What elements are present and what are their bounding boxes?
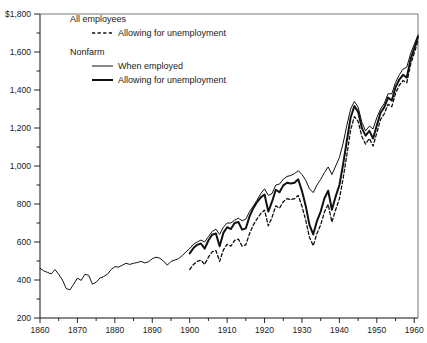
y-axis-tick-label: 1,600: [10, 47, 32, 57]
y-axis-tick-label: 1,400: [10, 85, 32, 95]
x-axis-tick-label: 1880: [105, 325, 124, 335]
plot-frame: [40, 14, 418, 318]
series-line-nonfarm_when_employed: [40, 35, 418, 290]
x-axis-tick-label: 1870: [68, 325, 87, 335]
y-axis-tick-label: 800: [17, 199, 31, 209]
y-axis-tick-label: 600: [17, 237, 31, 247]
y-axis-tick-label: 1,200: [10, 123, 32, 133]
y-axis-tick-label: 200: [17, 313, 31, 323]
x-axis-tick-label: 1960: [405, 325, 424, 335]
x-axis-tick-label: 1860: [31, 325, 50, 335]
legend-entry-label: Allowing for unemployment: [118, 28, 227, 38]
x-axis-tick-label: 1890: [143, 325, 162, 335]
x-axis-labels: 1860187018801890190019101920193019401950…: [31, 325, 424, 335]
x-axis-tick-label: 1940: [330, 325, 349, 335]
legend-group-title: Nonfarm: [70, 47, 105, 57]
legend-entry-label: When employed: [118, 61, 183, 71]
axis-lines: [40, 14, 418, 318]
series-line-nonfarm_allowing_unemployment: [190, 37, 418, 254]
earnings-line-chart: 2004006008001,0001,2001,4001,600$1,800 1…: [0, 0, 427, 343]
chart-page: 2004006008001,0001,2001,4001,600$1,800 1…: [0, 0, 427, 343]
x-axis-tick-label: 1930: [293, 325, 312, 335]
chart-legend: All employeesAllowing for unemploymentNo…: [70, 14, 227, 85]
y-axis-tick-label: 400: [17, 275, 31, 285]
y-axis-tick-label: $1,800: [5, 9, 31, 19]
data-series-layer: [40, 35, 418, 290]
y-axis-labels: 2004006008001,0001,2001,4001,600$1,800: [5, 9, 31, 323]
legend-entry-label: Allowing for unemployment: [118, 75, 227, 85]
x-axis-tick-label: 1950: [367, 325, 386, 335]
legend-group-title: All employees: [70, 14, 127, 24]
x-axis-tick-label: 1910: [218, 325, 237, 335]
x-axis-ticks: [40, 318, 414, 323]
x-axis-tick-label: 1900: [180, 325, 199, 335]
y-axis-tick-label: 1,000: [10, 161, 32, 171]
y-axis-ticks: [34, 14, 40, 318]
x-axis-tick-label: 1920: [255, 325, 274, 335]
